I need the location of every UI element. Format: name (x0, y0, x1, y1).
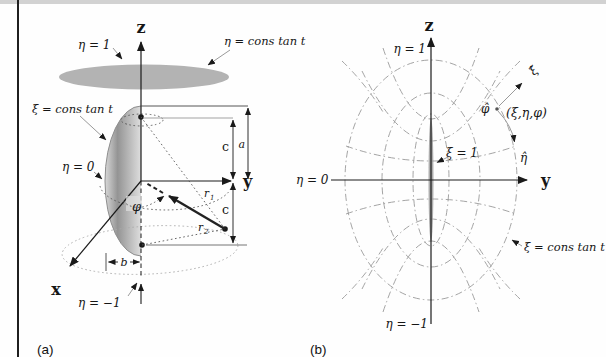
leader-eta-neg1-a (128, 283, 137, 296)
x-axis-label-a: x (51, 280, 61, 299)
xi-hat-arrow (499, 83, 522, 106)
dim-a-label: a (238, 138, 245, 151)
lower-sheet-rim (61, 221, 239, 278)
leader-eta0-a (94, 172, 102, 179)
dim-c-lower-label: c (222, 202, 229, 217)
position-vector-hidden (145, 183, 163, 194)
dim-c-upper-label: c (222, 139, 229, 154)
top-edge-strip (0, 0, 606, 4)
dim-b-label: b (120, 256, 127, 269)
xi-constant-spheroid (105, 106, 141, 256)
r1-line (141, 117, 225, 229)
leader-xi-const-a (80, 116, 106, 140)
figure-b: z y η = 1 η = 0 η = −1 ξ = 1 ξ = cons ta… (296, 16, 605, 357)
eta-constant-disk (59, 65, 229, 90)
textbook-figure-page: z y x η = 1 η = cons tan t ξ = cons tan … (0, 0, 606, 357)
left-margin-rule (17, 0, 19, 357)
xi-hat-label: ξ̂ (526, 63, 542, 79)
eta-neg1-label-a: η = −1 (78, 296, 121, 310)
point-marker-b (495, 107, 499, 111)
eta-neg1-label-b: η = −1 (385, 317, 428, 331)
position-vector (169, 196, 225, 229)
xi-1-label: ξ = 1 (446, 146, 478, 160)
point-coords-label: (ξ,η,φ) (506, 105, 547, 120)
phi-label: φ (132, 199, 142, 214)
hyperbola-arm-lr (479, 248, 520, 299)
xi-const-label-a: ξ = cons tan t (32, 102, 113, 116)
r1-subscript: 1 (210, 194, 214, 202)
figure-a: z y x η = 1 η = cons tan t ξ = cons tan … (32, 18, 306, 357)
z-axis-label-a: z (136, 18, 145, 37)
r2-subscript: 2 (203, 228, 209, 236)
eta-0-label-a: η = 0 (62, 160, 95, 174)
z-axis-label-b: z (424, 16, 433, 35)
phi-hat-label: φ̂ (481, 102, 490, 116)
caption-b: (b) (310, 342, 327, 357)
eta-1-label-b: η = 1 (393, 42, 426, 56)
eta-hat-label: η̂ (520, 151, 528, 165)
hyperbola-arm-ll (342, 248, 383, 299)
y-axis-label-b: y (540, 171, 551, 190)
y-axis-label-a: y (242, 172, 253, 191)
r2-line (142, 229, 225, 245)
caption-a: (a) (37, 342, 54, 357)
xi-const-label-b: ξ = cons tan t (524, 240, 605, 254)
eta-0-label-b: η = 0 (296, 173, 329, 187)
leader-eta1-a (113, 48, 122, 59)
leader-xi-const-b (512, 240, 522, 246)
eta-const-label-a: η = cons tan t (224, 34, 306, 48)
spheroidal-coordinates-figure: z y x η = 1 η = cons tan t ξ = cons tan … (0, 0, 606, 357)
leader-eta-const (208, 50, 230, 65)
eta-1-label-a: η = 1 (78, 38, 111, 52)
